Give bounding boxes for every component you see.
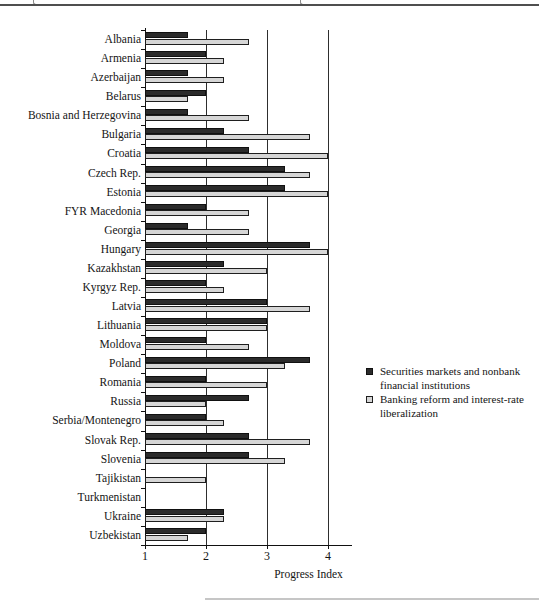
y-tick	[141, 488, 145, 489]
bar-banking	[145, 477, 206, 483]
bar-banking	[145, 535, 188, 541]
y-tick	[141, 125, 145, 126]
bar-securities	[145, 204, 206, 210]
bar-banking	[145, 287, 224, 293]
bar-banking	[145, 439, 310, 445]
y-tick	[141, 469, 145, 470]
bar-securities	[145, 242, 310, 248]
bar-securities	[145, 395, 249, 401]
bar-banking	[145, 134, 310, 140]
bar-securities	[145, 70, 188, 76]
x-tick-label-2: 2	[194, 549, 218, 564]
bar-securities	[145, 280, 206, 286]
y-tick	[141, 545, 145, 546]
category-label: Poland	[0, 354, 141, 373]
bar-securities	[145, 261, 224, 267]
legend: Securities markets and nonbank financial…	[364, 365, 536, 421]
bar-securities	[145, 90, 206, 96]
y-tick	[141, 49, 145, 50]
y-tick	[141, 526, 145, 527]
bar-securities	[145, 357, 310, 363]
bar-banking	[145, 96, 188, 102]
category-label: Bosnia and Herzegovina	[0, 106, 141, 125]
x-tick-label-1: 1	[133, 549, 157, 564]
category-label: Tajikistan	[0, 469, 141, 488]
category-label: Kazakhstan	[0, 259, 141, 278]
gridline-4	[328, 30, 329, 545]
bar-securities	[145, 223, 188, 229]
bar-banking	[145, 516, 224, 522]
bar-banking	[145, 268, 267, 274]
category-label: Serbia/Montenegro	[0, 411, 141, 430]
x-tick-label-4: 4	[316, 549, 340, 564]
bar-securities	[145, 318, 267, 324]
banking-legend-swatch	[366, 396, 373, 403]
y-tick	[141, 87, 145, 88]
bar-banking	[145, 401, 206, 407]
category-label: FYR Macedonia	[0, 202, 141, 221]
bar-securities	[145, 509, 224, 515]
legend-label: Banking reform and interest-rate liberal…	[380, 393, 524, 419]
securities-legend-swatch	[366, 368, 373, 375]
category-labels: AlbaniaArmeniaAzerbaijanBelarusBosnia an…	[0, 30, 141, 545]
bar-securities	[145, 128, 224, 134]
category-label: Bulgaria	[0, 125, 141, 144]
y-tick	[141, 450, 145, 451]
y-tick	[141, 411, 145, 412]
y-tick	[141, 507, 145, 508]
category-label: Russia	[0, 392, 141, 411]
bar-securities	[145, 147, 249, 153]
category-label: Slovenia	[0, 450, 141, 469]
bar-banking	[145, 58, 224, 64]
bar-banking	[145, 191, 328, 197]
x-axis-line	[145, 545, 352, 546]
bar-banking	[145, 382, 267, 388]
bar-securities	[145, 376, 206, 382]
bar-banking	[145, 458, 285, 464]
y-tick	[141, 259, 145, 260]
y-tick	[141, 373, 145, 374]
y-tick	[141, 106, 145, 107]
gridline-3	[267, 30, 268, 545]
y-tick	[141, 68, 145, 69]
bar-banking	[145, 363, 285, 369]
bar-securities	[145, 32, 188, 38]
y-tick	[141, 335, 145, 336]
bar-securities	[145, 452, 249, 458]
y-tick	[141, 431, 145, 432]
bar-securities	[145, 51, 206, 57]
bar-banking	[145, 229, 249, 235]
y-tick	[141, 240, 145, 241]
y-tick	[141, 297, 145, 298]
category-label: Latvia	[0, 297, 141, 316]
legend-label: Securities markets and nonbank financial…	[380, 365, 520, 391]
y-tick	[141, 221, 145, 222]
bar-banking	[145, 210, 249, 216]
category-label: Lithuania	[0, 316, 141, 335]
y-tick	[141, 144, 145, 145]
page-bottom-edge-shadow	[205, 598, 539, 600]
y-tick	[141, 164, 145, 165]
bar-banking	[145, 249, 328, 255]
bar-banking	[145, 153, 328, 159]
top-divider-rule	[0, 4, 539, 6]
plot-area	[145, 30, 352, 545]
category-label: Slovak Rep.	[0, 431, 141, 450]
bar-banking	[145, 325, 267, 331]
bar-banking	[145, 39, 249, 45]
bar-securities	[145, 337, 206, 343]
category-label: Georgia	[0, 221, 141, 240]
category-label: Belarus	[0, 87, 141, 106]
x-tick-label-3: 3	[255, 549, 279, 564]
bar-securities	[145, 109, 188, 115]
bar-banking	[145, 77, 224, 83]
y-tick	[141, 316, 145, 317]
category-label: Albania	[0, 30, 141, 49]
category-label: Armenia	[0, 49, 141, 68]
category-label: Moldova	[0, 335, 141, 354]
y-tick	[141, 278, 145, 279]
y-tick	[141, 354, 145, 355]
category-label: Estonia	[0, 183, 141, 202]
category-label: Romania	[0, 373, 141, 392]
category-label: Croatia	[0, 144, 141, 163]
